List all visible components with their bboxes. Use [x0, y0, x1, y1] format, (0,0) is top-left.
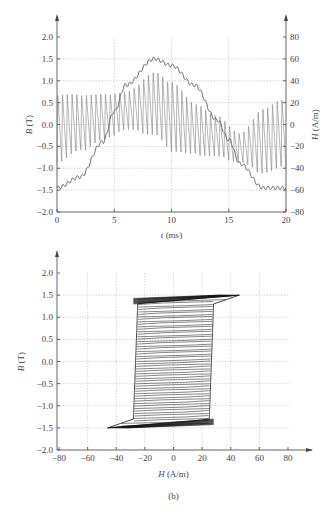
y2-tick-label: 40	[290, 76, 300, 86]
y-tick-label: 1.0	[42, 76, 54, 86]
y2-axis-arrow-icon	[284, 14, 288, 21]
y2-axis-label: H (A/m)	[310, 109, 320, 141]
x-tick-label: 0	[55, 215, 60, 225]
figure: 051015202.01.51.00.50.0−0.5−1.0−1.5−2.08…	[0, 0, 330, 518]
y-tick-label: −1.0	[37, 401, 54, 411]
x-axis-arrow-icon	[306, 448, 313, 452]
y-axis-arrow-icon	[55, 250, 59, 257]
y-axis-arrow-icon	[55, 14, 59, 21]
y-tick-label: 0.5	[42, 98, 54, 108]
y-tick-label: −1.5	[37, 185, 54, 195]
x-tick-label: 0	[171, 453, 176, 463]
x-tick-label: 15	[224, 215, 234, 225]
y-tick-label: −0.5	[37, 379, 54, 389]
y-tick-label: 1.5	[42, 54, 54, 64]
y2-tick-label: 80	[290, 32, 300, 42]
x-tick-label: −40	[109, 453, 124, 463]
x-tick-label: 5	[112, 215, 117, 225]
x-tick-label: 20	[198, 453, 208, 463]
y2-tick-label: −20	[290, 141, 305, 151]
y-tick-label: 2.0	[42, 268, 54, 278]
y-axis-label: B (T)	[16, 352, 26, 371]
y2-tick-label: −80	[290, 207, 305, 217]
x-tick-label: 40	[226, 453, 236, 463]
x-tick-label: −60	[81, 453, 96, 463]
x-tick-label: 60	[255, 453, 265, 463]
y2-tick-label: 0	[290, 120, 295, 130]
chart-b: −80−60−40−200204060802.01.51.00.50.0−0.5…	[16, 250, 313, 501]
y-tick-label: 1.0	[42, 312, 54, 322]
y-tick-label: 0.0	[42, 120, 54, 130]
y2-tick-label: −40	[290, 163, 305, 173]
y-axis-label: B (T)	[24, 115, 34, 134]
y-tick-label: 2.0	[42, 32, 54, 42]
y-tick-label: −1.0	[37, 163, 54, 173]
y-tick-label: −2.0	[37, 445, 54, 455]
x-tick-label: 80	[284, 453, 294, 463]
y-tick-label: 0.5	[42, 334, 54, 344]
figure-caption: (b)	[168, 491, 179, 501]
grid	[57, 37, 286, 212]
x-tick-label: −20	[138, 453, 153, 463]
y2-tick-label: 60	[290, 54, 300, 64]
y2-tick-label: 20	[290, 98, 300, 108]
y-tick-label: −1.5	[37, 423, 54, 433]
y2-tick-label: −60	[290, 185, 305, 195]
chart-a: 051015202.01.51.00.50.0−0.5−1.0−1.5−2.08…	[24, 14, 320, 240]
y-tick-label: 0.0	[42, 357, 54, 367]
y-tick-label: 1.5	[42, 290, 54, 300]
x-tick-label: 10	[167, 215, 177, 225]
x-axis-label: t (ms)	[161, 230, 182, 240]
x-tick-label: −80	[52, 453, 67, 463]
y-tick-label: −0.5	[37, 141, 54, 151]
x-axis-label: H (A/m)	[157, 469, 189, 479]
y-tick-label: −2.0	[37, 207, 54, 217]
